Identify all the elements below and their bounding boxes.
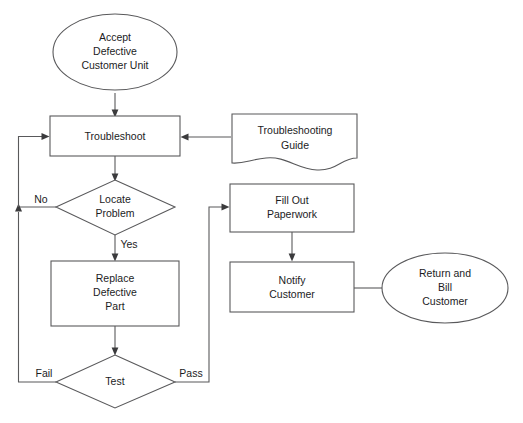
connector-test-pass-to-paperwork (175, 204, 230, 382)
node-accept-defective-customer-unit[interactable]: Accept Defective Customer Unit (53, 14, 177, 90)
node-label-notify-line2: Customer (269, 288, 315, 300)
edge-label-yes: Yes (120, 238, 137, 250)
connector-test-fail-to-rail (19, 212, 57, 382)
node-label-troubleshoot: Troubleshoot (85, 130, 146, 142)
node-label-test: Test (105, 375, 124, 387)
node-troubleshooting-guide[interactable]: Troubleshooting Guide (232, 114, 357, 170)
connector-accept-to-troubleshoot (112, 93, 119, 118)
connector-guide-to-troubleshoot (181, 134, 232, 141)
node-label-accept-line3: Customer Unit (81, 59, 148, 71)
node-label-accept-line1: Accept (99, 31, 131, 43)
node-label-return-line3: Customer (422, 295, 468, 307)
node-test[interactable]: Test (56, 355, 175, 408)
node-replace-defective-part[interactable]: Replace Defective Part (51, 261, 179, 326)
edge-label-fail: Fail (36, 367, 53, 379)
node-label-replace-line1: Replace (96, 272, 135, 284)
node-troubleshoot[interactable]: Troubleshoot (50, 116, 180, 156)
node-label-return-line1: Return and (419, 267, 471, 279)
node-label-locate-line2: Problem (95, 207, 134, 219)
flowchart-canvas: Accept Defective Customer Unit Troublesh… (0, 0, 523, 423)
connector-paperwork-to-notify (289, 232, 296, 262)
connector-replace-to-test (112, 326, 119, 356)
connector-locate-yes-to-replace (112, 235, 119, 262)
connector-troubleshoot-to-locate (112, 156, 119, 182)
node-locate-problem[interactable]: Locate Problem (56, 180, 175, 235)
edge-label-no: No (34, 193, 48, 205)
node-label-accept-line2: Defective (93, 45, 137, 57)
node-label-guide-line2: Guide (281, 139, 309, 151)
edge-label-pass: Pass (179, 367, 202, 379)
node-fill-out-paperwork[interactable]: Fill Out Paperwork (230, 184, 354, 232)
node-label-return-line2: Bill (438, 281, 452, 293)
node-label-notify-line1: Notify (279, 274, 307, 286)
node-label-replace-line3: Part (105, 300, 124, 312)
node-label-locate-line1: Locate (99, 193, 131, 205)
flowchart-diagram: Accept Defective Customer Unit Troublesh… (0, 0, 523, 423)
node-label-guide-line1: Troubleshooting (258, 124, 333, 136)
node-label-paperwork-line2: Paperwork (267, 208, 318, 220)
node-return-and-bill-customer[interactable]: Return and Bill Customer (382, 253, 508, 323)
node-label-replace-line2: Defective (93, 286, 137, 298)
node-label-paperwork-line1: Fill Out (275, 194, 308, 206)
node-notify-customer[interactable]: Notify Customer (230, 262, 354, 312)
